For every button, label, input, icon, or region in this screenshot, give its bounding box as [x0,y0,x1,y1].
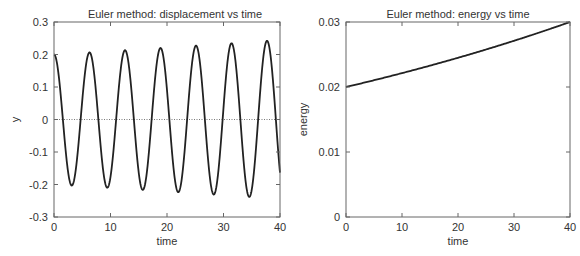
x-tick-label: 20 [161,221,173,233]
y-tick-label: -0.1 [29,146,48,158]
x-tick-label: 40 [564,221,576,233]
energy-plot: 01020304000.010.020.03Euler method: ener… [297,8,576,247]
x-tick-label: 30 [508,221,520,233]
x-tick-label: 0 [343,221,349,233]
y-tick-label: 0.1 [33,81,48,93]
y-tick-label: 0 [334,211,340,223]
y-tick-label: 0.01 [319,146,340,158]
displacement-plot: 010203040-0.3-0.2-0.100.10.20.3Euler met… [9,8,286,247]
displacement-curve [54,41,280,197]
y-tick-label: 0 [42,114,48,126]
plot-frame [346,22,570,217]
y-axis-label: y [9,116,21,122]
figure: 010203040-0.3-0.2-0.100.10.20.3Euler met… [0,0,580,256]
x-axis-label: time [157,235,178,247]
x-axis-label: time [448,235,469,247]
x-tick-label: 10 [396,221,408,233]
chart-title: Euler method: displacement vs time [88,8,262,20]
y-tick-label: 0.3 [33,16,48,28]
x-tick-label: 0 [51,221,57,233]
x-tick-label: 10 [104,221,116,233]
chart-title: Euler method: energy vs time [386,8,529,20]
x-tick-label: 40 [274,221,286,233]
y-tick-label: -0.2 [29,179,48,191]
y-tick-label: 0.02 [319,81,340,93]
energy-curve [346,22,570,87]
y-tick-label: 0.03 [319,16,340,28]
y-axis-label: energy [297,102,309,136]
y-tick-label: -0.3 [29,211,48,223]
x-tick-label: 30 [217,221,229,233]
x-tick-label: 20 [452,221,464,233]
y-tick-label: 0.2 [33,49,48,61]
